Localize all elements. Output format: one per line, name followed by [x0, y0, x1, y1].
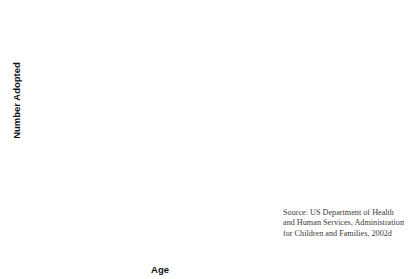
source-note: Source: US Department of Health and Huma… [283, 208, 407, 239]
bar-chart-figure: Number Adopted 51,000 Total Children Ado… [0, 0, 409, 279]
x-axis-title: Age [118, 264, 202, 275]
